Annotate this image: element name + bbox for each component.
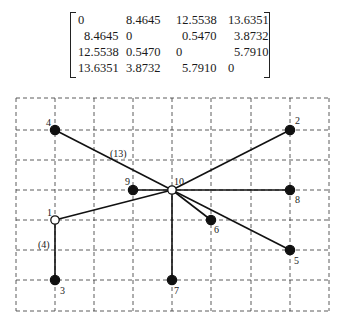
node-label-1: 1 bbox=[47, 207, 52, 218]
edge-1-10 bbox=[55, 190, 172, 220]
nodes: 12345678910 bbox=[46, 115, 300, 296]
edge-weight-annotation: (13) bbox=[110, 148, 127, 160]
node-5 bbox=[285, 245, 294, 254]
node-label-5: 5 bbox=[294, 255, 299, 266]
node-label-9: 9 bbox=[125, 176, 130, 187]
network-diagram: 12345678910(13)(4) bbox=[0, 0, 343, 326]
node-7 bbox=[167, 275, 176, 284]
node-8 bbox=[285, 185, 294, 194]
edge-weight-annotation: (4) bbox=[38, 239, 50, 251]
node-10 bbox=[168, 186, 176, 194]
node-4 bbox=[50, 125, 59, 134]
node-label-8: 8 bbox=[295, 194, 300, 205]
node-1 bbox=[51, 216, 59, 224]
edge-6-10 bbox=[172, 190, 211, 220]
edge-5-10 bbox=[172, 190, 290, 250]
node-label-3: 3 bbox=[60, 285, 65, 296]
node-label-2: 2 bbox=[295, 115, 300, 126]
node-3 bbox=[50, 275, 59, 284]
node-label-10: 10 bbox=[174, 176, 184, 187]
node-label-6: 6 bbox=[214, 224, 219, 235]
node-label-4: 4 bbox=[46, 117, 51, 128]
edge-2-10 bbox=[172, 130, 290, 190]
node-2 bbox=[285, 125, 294, 134]
node-label-7: 7 bbox=[174, 285, 179, 296]
edges bbox=[55, 130, 290, 280]
